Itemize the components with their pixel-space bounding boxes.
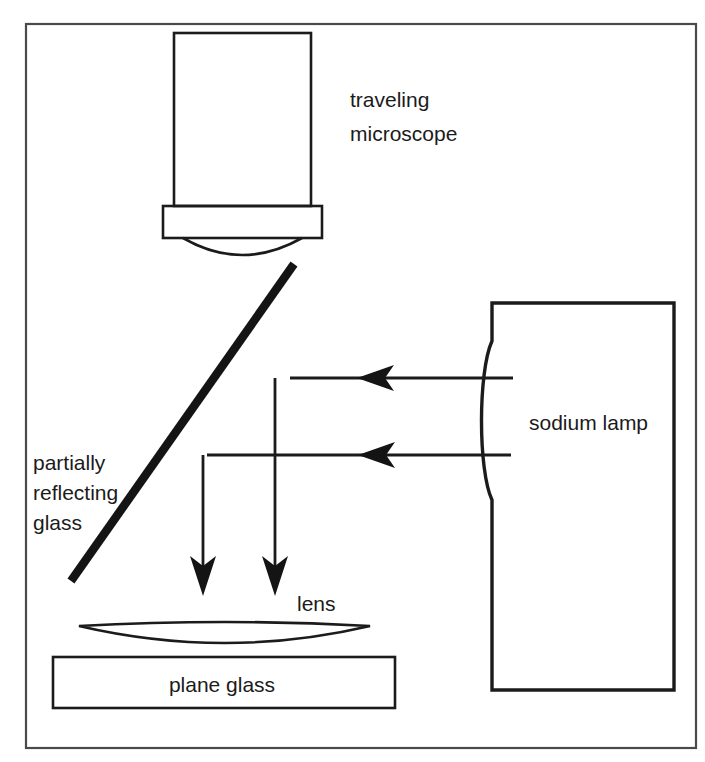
partially-reflecting-glass-plate: [71, 264, 294, 581]
sodium-lamp-housing: [482, 303, 675, 690]
traveling-microscope: [163, 33, 322, 255]
label-partially-reflecting-glass-line1: partially: [33, 451, 106, 474]
figure-canvas: traveling microscope partially reflectin…: [0, 0, 705, 762]
microscope-objective-mount: [163, 206, 322, 238]
label-partially-reflecting-glass-line3: glass: [33, 511, 82, 534]
optics-diagram: traveling microscope partially reflectin…: [0, 0, 705, 762]
microscope-body-tube: [174, 33, 311, 206]
label-sodium-lamp: sodium lamp: [529, 411, 648, 434]
lens-shape: [79, 622, 370, 643]
label-plane-glass: plane glass: [169, 673, 275, 696]
label-traveling-microscope-line2: microscope: [350, 122, 457, 145]
microscope-objective-lens-arc: [183, 238, 302, 255]
label-lens: lens: [297, 592, 336, 615]
light-rays: [190, 365, 513, 596]
sodium-lamp: [482, 303, 675, 690]
label-traveling-microscope-line1: traveling: [350, 88, 429, 111]
label-partially-reflecting-glass-line2: reflecting: [33, 481, 118, 504]
